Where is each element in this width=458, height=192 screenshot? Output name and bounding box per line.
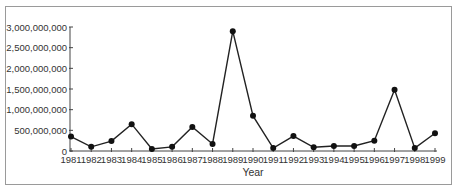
y-tick-label: 500,000,000 xyxy=(14,125,67,136)
line-chart: 0500,000,0001,000,000,0001,500,000,0002,… xyxy=(0,0,458,192)
data-point-marker xyxy=(351,143,357,149)
data-point-marker xyxy=(392,87,398,93)
x-tick-label: 1990 xyxy=(242,154,263,165)
x-tick-label: 1993 xyxy=(303,154,324,165)
data-point-marker xyxy=(432,130,438,136)
x-tick-label: 1999 xyxy=(424,154,445,165)
x-tick-label: 1986 xyxy=(162,154,183,165)
x-tick-label: 1988 xyxy=(202,154,223,165)
data-point-marker xyxy=(68,134,74,140)
series-line xyxy=(71,31,435,149)
data-point-marker xyxy=(169,144,175,150)
data-point-marker xyxy=(311,144,317,150)
x-tick-label: 1995 xyxy=(344,154,365,165)
data-point-marker xyxy=(230,28,236,34)
y-tick-label: 1,000,000,000 xyxy=(6,104,67,115)
x-axis-title: Year xyxy=(242,166,264,178)
y-tick-label: 3,000,000,000 xyxy=(6,22,67,33)
data-point-marker xyxy=(108,138,114,144)
y-tick-label: 2,500,000,000 xyxy=(6,42,67,53)
x-tick-label: 1991 xyxy=(263,154,284,165)
data-point-marker xyxy=(88,144,94,150)
y-tick-label: 2,000,000,000 xyxy=(6,63,67,74)
data-point-marker xyxy=(189,124,195,130)
data-point-marker xyxy=(290,133,296,139)
x-tick-label: 1981 xyxy=(60,154,81,165)
data-point-marker xyxy=(250,113,256,119)
x-tick-label: 1984 xyxy=(121,154,142,165)
data-point-marker xyxy=(331,143,337,149)
data-point-marker xyxy=(412,145,418,151)
x-tick-label: 1982 xyxy=(81,154,102,165)
data-point-marker xyxy=(129,121,135,127)
y-tick-label: 1,500,000,000 xyxy=(6,84,67,95)
y-axis: 0500,000,0001,000,000,0001,500,000,0002,… xyxy=(6,22,73,157)
x-tick-label: 1994 xyxy=(323,154,344,165)
data-point-marker xyxy=(210,141,216,147)
x-tick-label: 1983 xyxy=(101,154,122,165)
data-series xyxy=(68,28,438,152)
x-axis: 1981198219831984198519861987198819891990… xyxy=(60,148,445,165)
data-point-marker xyxy=(371,138,377,144)
x-tick-label: 1998 xyxy=(404,154,425,165)
x-tick-label: 1987 xyxy=(182,154,203,165)
x-tick-label: 1996 xyxy=(364,154,385,165)
x-tick-label: 1997 xyxy=(384,154,405,165)
x-tick-label: 1989 xyxy=(222,154,243,165)
x-tick-label: 1985 xyxy=(141,154,162,165)
data-point-marker xyxy=(270,145,276,151)
x-tick-label: 1992 xyxy=(283,154,304,165)
data-point-marker xyxy=(149,146,155,152)
